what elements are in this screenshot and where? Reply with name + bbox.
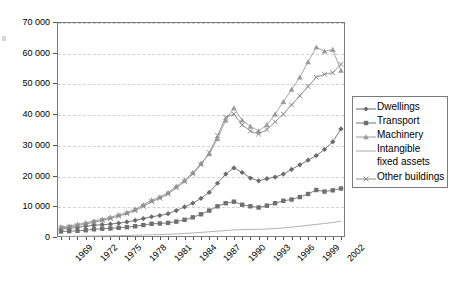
cross-marker-icon bbox=[355, 171, 377, 183]
x-tick-mark bbox=[176, 237, 177, 240]
x-tick-mark bbox=[316, 237, 317, 240]
edge-artifact bbox=[2, 36, 6, 41]
x-tick-mark bbox=[292, 237, 293, 240]
x-tick-mark bbox=[86, 237, 87, 240]
y-tick-label: 30 000 bbox=[0, 141, 50, 150]
x-tick-label: 1993 bbox=[272, 243, 293, 264]
x-tick-label: 1996 bbox=[296, 243, 317, 264]
x-tick-mark bbox=[110, 237, 111, 240]
x-tick-mark bbox=[341, 237, 342, 240]
x-tick-mark bbox=[234, 237, 235, 240]
x-tick-mark bbox=[143, 237, 144, 240]
y-tick-mark bbox=[53, 237, 57, 238]
chart-legend: DwellingsTransportMachineryIntangiblefix… bbox=[352, 96, 448, 188]
legend-item-intangible[interactable]: Intangible bbox=[355, 142, 444, 156]
x-tick-mark bbox=[275, 237, 276, 240]
x-tick-mark bbox=[168, 237, 169, 240]
x-tick-mark bbox=[160, 237, 161, 240]
y-tick-label: 10 000 bbox=[0, 202, 50, 211]
x-tick-label: 1975 bbox=[123, 243, 144, 264]
legend-label: Machinery bbox=[377, 129, 423, 141]
x-tick-mark bbox=[333, 237, 334, 240]
y-tick-label: 60 000 bbox=[0, 49, 50, 58]
x-tick-label: 1990 bbox=[247, 243, 268, 264]
x-tick-mark bbox=[242, 237, 243, 240]
x-tick-mark bbox=[267, 237, 268, 240]
x-tick-mark bbox=[259, 237, 260, 240]
y-tick-label: 70 000 bbox=[0, 18, 50, 27]
x-tick-mark bbox=[250, 237, 251, 240]
legend-item-dwellings[interactable]: Dwellings bbox=[355, 100, 444, 114]
x-tick-mark bbox=[135, 237, 136, 240]
x-tick-mark bbox=[77, 237, 78, 240]
x-tick-mark bbox=[325, 237, 326, 240]
x-tick-mark bbox=[283, 237, 284, 240]
x-tick-mark bbox=[209, 237, 210, 240]
diamond-marker-icon bbox=[355, 101, 377, 113]
x-tick-mark bbox=[127, 237, 128, 240]
series-other-buildings bbox=[59, 62, 344, 230]
legend-label-continuation: fixed assets bbox=[355, 156, 444, 170]
x-tick-label: 2002 bbox=[346, 243, 367, 264]
x-tick-mark bbox=[193, 237, 194, 240]
x-tick-label: 1999 bbox=[321, 243, 342, 264]
x-tick-mark bbox=[300, 237, 301, 240]
y-tick-label: 0 bbox=[0, 233, 50, 242]
triangle-marker-icon bbox=[355, 129, 377, 141]
x-tick-mark bbox=[217, 237, 218, 240]
y-tick-label: 20 000 bbox=[0, 172, 50, 181]
y-tick-label: 40 000 bbox=[0, 110, 50, 119]
x-tick-mark bbox=[226, 237, 227, 240]
legend-label: Transport bbox=[377, 115, 419, 127]
series-layer bbox=[57, 22, 345, 237]
x-tick-label: 1978 bbox=[148, 243, 169, 264]
line-chart: 010 00020 00030 00040 00050 00060 00070 … bbox=[0, 0, 463, 287]
legend-item-transport[interactable]: Transport bbox=[355, 114, 444, 128]
x-tick-mark bbox=[201, 237, 202, 240]
x-tick-label: 1972 bbox=[99, 243, 120, 264]
legend-item-other-buildings[interactable]: Other buildings bbox=[355, 170, 444, 184]
line-marker-icon bbox=[355, 143, 377, 155]
x-tick-mark bbox=[185, 237, 186, 240]
square-marker-icon bbox=[355, 115, 377, 127]
y-tick-label: 50 000 bbox=[0, 79, 50, 88]
x-tick-mark bbox=[102, 237, 103, 240]
x-tick-mark bbox=[152, 237, 153, 240]
x-tick-mark bbox=[308, 237, 309, 240]
legend-item-machinery[interactable]: Machinery bbox=[355, 128, 444, 142]
series-machinery bbox=[58, 44, 344, 229]
x-tick-mark bbox=[61, 237, 62, 240]
x-tick-mark bbox=[69, 237, 70, 240]
x-tick-mark bbox=[94, 237, 95, 240]
legend-label: Dwellings bbox=[377, 101, 420, 113]
x-tick-label: 1987 bbox=[222, 243, 243, 264]
x-tick-label: 1984 bbox=[197, 243, 218, 264]
x-tick-mark bbox=[119, 237, 120, 240]
legend-label: Intangible bbox=[377, 143, 420, 155]
legend-label: Other buildings bbox=[377, 171, 444, 183]
x-tick-label: 1981 bbox=[173, 243, 194, 264]
x-tick-label: 1969 bbox=[74, 243, 95, 264]
